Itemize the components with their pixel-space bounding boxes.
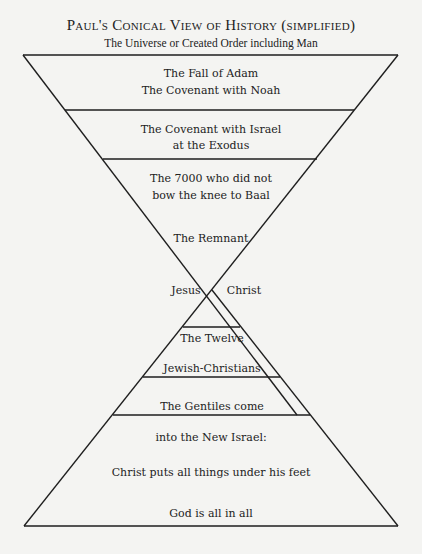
apex-label-jesus: Jesus (171, 285, 200, 296)
band-label-jewish-christians: Jewish-Christians (163, 363, 260, 374)
band-label-7000: The 7000 who did not (150, 173, 272, 184)
band-label-new-israel: into the New Israel: (155, 432, 266, 443)
diagram-title: Paul's Conical View of History (simplifi… (0, 17, 422, 34)
band-label-remnant: The Remnant (174, 233, 249, 244)
band-label-christ-feet: Christ puts all things under his feet (112, 467, 311, 478)
band-label-exodus: at the Exodus (173, 140, 250, 151)
apex-label-christ: Christ (227, 285, 261, 296)
diagram-subtitle: The Universe or Created Order including … (104, 38, 317, 50)
band-label-covenant-israel: The Covenant with Israel (141, 124, 282, 135)
band-label-gentiles: The Gentiles come (160, 401, 264, 412)
band-label-god-all-in-all: God is all in all (169, 508, 252, 519)
band-label-covenant-noah: The Covenant with Noah (142, 85, 281, 96)
band-label-twelve: The Twelve (180, 333, 244, 344)
band-label-fall-of-adam: The Fall of Adam (164, 68, 259, 79)
band-label-baal: bow the knee to Baal (152, 190, 270, 201)
